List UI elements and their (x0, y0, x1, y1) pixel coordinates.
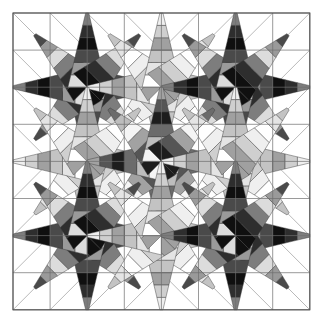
quilt-canvas (0, 0, 324, 331)
quilt-figure (0, 0, 324, 331)
